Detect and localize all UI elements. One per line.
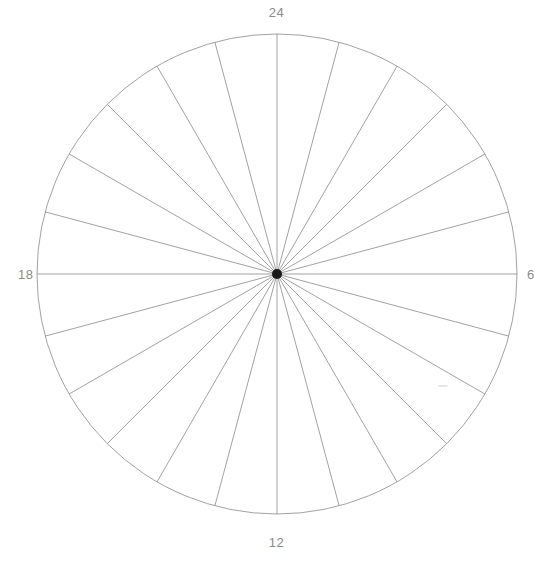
- axis-label-top: 24: [0, 6, 553, 19]
- sector-spoke: [277, 66, 397, 274]
- polar-diagram-canvas: [0, 0, 553, 562]
- axis-label-left: 18: [18, 268, 33, 281]
- sector-spoke: [45, 274, 277, 336]
- center-hub-dot: [272, 269, 282, 279]
- sector-spoke: [277, 274, 447, 444]
- sector-spoke: [277, 212, 509, 274]
- sector-spoke: [277, 154, 485, 274]
- sector-spoke: [45, 212, 277, 274]
- sector-spoke: [215, 42, 277, 274]
- sector-spoke: [277, 104, 447, 274]
- polar-diagram-figure: 24 6 12 18: [0, 0, 553, 562]
- sector-spoke: [277, 274, 339, 506]
- axis-label-right: 6: [527, 268, 535, 281]
- sector-spoke: [69, 274, 277, 394]
- sector-spoke: [69, 154, 277, 274]
- sector-spoke: [107, 104, 277, 274]
- sector-spoke: [277, 274, 397, 482]
- axis-label-bottom: 12: [0, 536, 553, 549]
- sector-spoke: [215, 274, 277, 506]
- sector-spoke: [277, 42, 339, 274]
- sector-spoke: [157, 274, 277, 482]
- sector-spoke: [277, 274, 485, 394]
- sector-spoke: [277, 274, 509, 336]
- sector-spoke: [157, 66, 277, 274]
- sector-spoke: [107, 274, 277, 444]
